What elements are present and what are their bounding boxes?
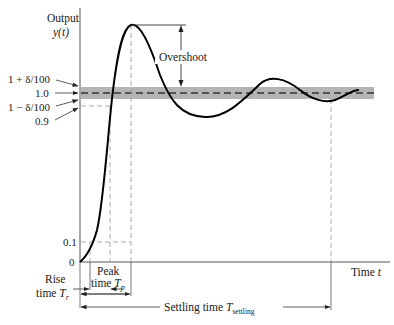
arrow-upper-band xyxy=(56,80,78,86)
settling-time-text: Settling time xyxy=(164,301,226,314)
peak-time-text: time xyxy=(91,277,114,289)
label-zero: 0 xyxy=(69,256,75,268)
y-axis-title: Output xyxy=(47,12,80,25)
overshoot-label: Overshoot xyxy=(159,51,208,63)
arrow-lower-band xyxy=(56,100,78,106)
arrow-0-9 xyxy=(55,108,78,120)
label-0-9: 0.9 xyxy=(35,115,49,127)
label-0-1: 0.1 xyxy=(63,236,77,248)
peak-time-label-line2: time Tp xyxy=(91,277,125,292)
label-upper-band: 1 + δ/100 xyxy=(8,73,50,85)
x-axis-title-text: Time xyxy=(351,266,378,278)
peak-time-subscript: p xyxy=(120,283,125,292)
rise-time-label-line2: time Tr xyxy=(36,287,70,302)
rise-time-text: time xyxy=(36,287,59,299)
rise-time-subscript: r xyxy=(66,293,70,302)
y-axis-symbol: y(t) xyxy=(52,26,69,39)
step-response-figure: Overshoot Output y(t) 1 + δ/100 1.0 1 − … xyxy=(0,0,394,325)
overshoot-arrowhead-top xyxy=(179,25,184,32)
settling-time-label: Settling time Tsettling xyxy=(164,301,255,316)
rise-time-label-line1: Rise xyxy=(45,273,65,285)
label-one: 1.0 xyxy=(35,87,49,99)
settling-time-subscript: settling xyxy=(232,307,254,316)
peak-time-label-line1: Peak xyxy=(97,265,120,277)
response-curve xyxy=(80,25,359,262)
x-axis-title: Time t xyxy=(351,266,382,278)
overshoot-arrowhead-bottom xyxy=(179,80,184,87)
label-lower-band: 1 − δ/100 xyxy=(8,101,50,113)
